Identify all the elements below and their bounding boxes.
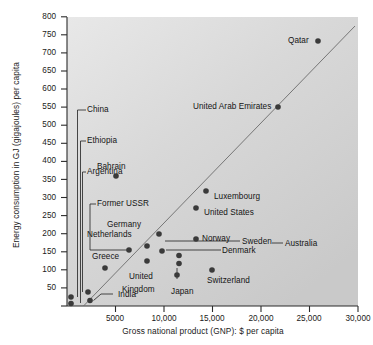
label-ethiopia: Ethiopia	[87, 136, 117, 145]
xtick-5000: 5000	[92, 314, 138, 323]
label-netherlands: Netherlands	[87, 230, 132, 239]
ytick-400: 400	[30, 156, 56, 165]
ytick-150: 150	[30, 247, 56, 256]
label-united-states: United States	[204, 208, 254, 217]
point-luxembourg	[203, 188, 209, 194]
point-germany	[144, 243, 150, 249]
label-switzerland: Switzerland	[207, 276, 250, 285]
point-sweden	[159, 248, 165, 254]
ytick-50: 50	[30, 283, 56, 292]
label-uae: United Arab Emirates	[193, 102, 271, 111]
label-australia: Australia	[285, 239, 317, 248]
y-axis-title: Energy consumption in GJ (gigajoules) pe…	[11, 25, 21, 285]
label-india: India	[118, 290, 136, 299]
ytick-600: 600	[30, 84, 56, 93]
point-united-kingdom	[144, 258, 150, 264]
label-denmark: Denmark	[222, 246, 256, 255]
xtick-25000: 25,000	[286, 314, 332, 323]
point-argentina	[85, 289, 91, 295]
ytick-350: 350	[30, 175, 56, 184]
point-qatar	[315, 38, 321, 44]
ytick-100: 100	[30, 265, 56, 274]
label-former-ussr: Former USSR	[97, 199, 149, 208]
label-argentina: Argentina	[87, 167, 123, 176]
ytick-450: 450	[30, 138, 56, 147]
ytick-300: 300	[30, 193, 56, 202]
ytick-750: 750	[30, 30, 56, 39]
label-sweden: Sweden	[242, 237, 272, 246]
xtick-20000: 20,000	[238, 314, 284, 323]
ytick-550: 550	[30, 102, 56, 111]
ytick-700: 700	[30, 48, 56, 57]
label-norway: Norway	[202, 234, 230, 243]
label-united-kingdom-line1: United	[129, 272, 153, 281]
xtick-15000: 15,000	[189, 314, 235, 323]
ytick-650: 650	[30, 66, 56, 75]
label-luxembourg: Luxembourg	[214, 192, 260, 201]
x-axis-title: Gross national product (GNP): $ per capi…	[78, 326, 328, 336]
label-germany: Germany	[107, 220, 141, 229]
point-ethiopia	[68, 301, 74, 307]
chart-figure: 800 750 700 650 600 550 500 450 400 350 …	[0, 0, 373, 345]
ytick-800: 800	[30, 12, 56, 21]
label-japan: Japan	[171, 287, 194, 296]
ytick-250: 250	[30, 211, 56, 220]
point-denmark	[176, 253, 182, 259]
ytick-500: 500	[30, 120, 56, 129]
point-united-states	[193, 205, 199, 211]
point-uae	[275, 104, 281, 110]
point-netherlands	[156, 231, 162, 237]
point-india	[87, 298, 93, 304]
label-qatar: Qatar	[288, 36, 309, 45]
xtick-30000: 30,000	[335, 314, 373, 323]
y-axis-ticks	[61, 17, 67, 306]
point-china	[68, 294, 74, 300]
point-switzerland	[209, 267, 215, 273]
point-greece	[102, 265, 108, 271]
point-former-ussr	[126, 247, 132, 253]
label-greece: Greece	[92, 252, 119, 261]
point-japan	[174, 272, 180, 278]
ytick-200: 200	[30, 229, 56, 238]
point-norway	[193, 236, 199, 242]
point-australia	[176, 261, 182, 267]
xtick-10000: 10,000	[141, 314, 187, 323]
x-axis-ticks	[116, 306, 359, 312]
label-china: China	[87, 105, 109, 114]
